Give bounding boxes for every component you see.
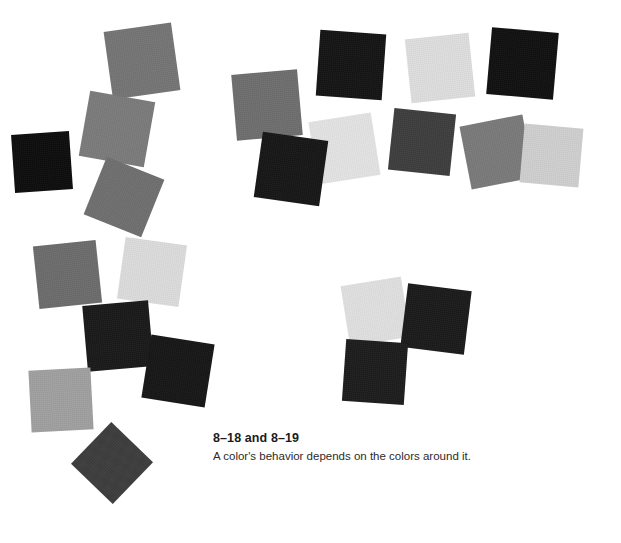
- figure-page: 8–18 and 8–19 A color's behavior depends…: [0, 0, 621, 543]
- color-swatch: [316, 30, 386, 100]
- color-swatch: [79, 91, 155, 167]
- color-swatch: [520, 124, 584, 188]
- color-swatch: [342, 339, 408, 405]
- color-swatch: [28, 367, 93, 432]
- color-swatch: [84, 157, 165, 238]
- color-swatch: [400, 283, 471, 354]
- color-swatch: [71, 422, 153, 504]
- color-swatch: [254, 132, 329, 207]
- color-swatch: [405, 33, 475, 103]
- color-swatch: [141, 334, 214, 407]
- color-swatch: [11, 131, 73, 193]
- color-swatch: [486, 27, 559, 100]
- color-swatch: [231, 69, 303, 141]
- color-swatch: [33, 240, 102, 309]
- color-swatch: [117, 237, 187, 307]
- color-swatch: [388, 108, 456, 176]
- figure-caption: 8–18 and 8–19 A color's behavior depends…: [213, 431, 543, 463]
- caption-title: 8–18 and 8–19: [213, 431, 543, 446]
- caption-description: A color's behavior depends on the colors…: [213, 449, 543, 463]
- color-swatch: [341, 277, 411, 347]
- color-swatch: [104, 23, 181, 100]
- color-swatch: [82, 300, 154, 372]
